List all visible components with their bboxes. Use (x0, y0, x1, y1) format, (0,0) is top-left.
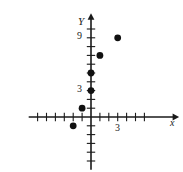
axis-lines-group (29, 15, 177, 170)
coordinate-plane-canvas (0, 0, 183, 172)
data-point (97, 52, 104, 59)
data-point (88, 87, 95, 94)
y-axis-label: Y (78, 16, 84, 27)
scatter-plot-figure: Y x 9 3 3 (0, 0, 183, 172)
y-tick-label-9: 9 (77, 31, 82, 41)
data-point (114, 34, 121, 41)
data-point (70, 122, 77, 129)
y-tick-label-3: 3 (77, 84, 82, 94)
axis-arrowheads-group (88, 13, 180, 120)
y-axis-arrowhead (88, 13, 95, 20)
data-point (88, 70, 95, 77)
x-axis-label: x (170, 118, 174, 128)
data-points-group (70, 34, 121, 129)
x-tick-label-3: 3 (115, 123, 120, 133)
data-point (79, 105, 86, 112)
